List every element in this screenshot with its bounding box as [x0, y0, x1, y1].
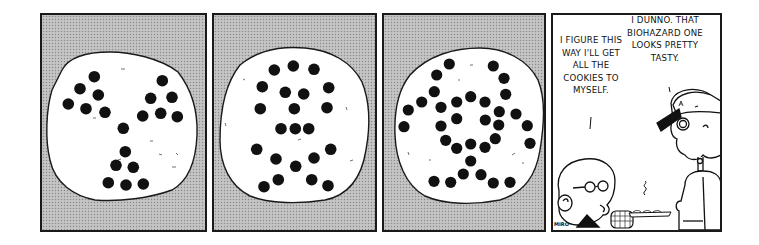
- chocolate-chip: [157, 75, 169, 87]
- chocolate-chip: [500, 89, 511, 100]
- chocolate-chip: [323, 82, 335, 94]
- chocolate-chip: [465, 155, 476, 166]
- chocolate-chip: [306, 174, 318, 186]
- speech-balloon-left: I figure this way I'll get all the cooki…: [556, 34, 626, 97]
- chocolate-chip: [155, 108, 167, 120]
- chocolate-chip: [289, 103, 301, 115]
- chocolate-chip: [74, 83, 86, 95]
- chocolate-chip: [435, 120, 446, 131]
- chocolate-chip: [145, 93, 157, 105]
- chocolate-chip: [451, 96, 462, 107]
- chocolate-chip: [118, 123, 130, 135]
- cookie: [395, 48, 544, 203]
- chocolate-chip: [465, 138, 476, 149]
- chocolate-chip: [280, 87, 292, 99]
- panel-3-swirl-cookie: [382, 13, 546, 232]
- kid-with-cap: [657, 90, 720, 231]
- speech-balloon-right: I dunno. That biohazard one looks pretty…: [623, 14, 707, 64]
- chocolate-chip: [325, 144, 337, 156]
- chocolate-chip: [504, 177, 515, 188]
- artist-signature: MIRO: [554, 221, 569, 227]
- speech-tail-right: [669, 87, 670, 92]
- chocolate-chip: [251, 144, 263, 156]
- comic-strip: I figure this way I'll get all the cooki…: [0, 0, 759, 245]
- chocolate-chip: [89, 71, 101, 83]
- chocolate-chip: [428, 176, 439, 187]
- chocolate-chip: [479, 142, 490, 153]
- chocolate-chip: [63, 98, 75, 110]
- cookie-illustration: [42, 15, 205, 230]
- chocolate-chip: [321, 102, 333, 114]
- chocolate-chip: [110, 160, 122, 172]
- chocolate-chip: [270, 153, 282, 165]
- chocolate-chip: [258, 181, 270, 193]
- panel-4-dialogue: I figure this way I'll get all the cooki…: [551, 13, 722, 232]
- chocolate-chip: [488, 177, 499, 188]
- chocolate-chip: [431, 69, 442, 80]
- panel-1-biohazard-cookie: [40, 13, 207, 232]
- chocolate-chip: [445, 177, 456, 188]
- chocolate-chip: [479, 96, 490, 107]
- chocolate-chip: [322, 180, 334, 192]
- chocolate-chip: [290, 161, 302, 173]
- kid-with-glasses: [558, 159, 615, 227]
- chocolate-chip: [166, 92, 178, 104]
- cookie-tray: [629, 211, 671, 218]
- chocolate-chip: [255, 103, 267, 115]
- chocolate-chip: [524, 138, 535, 149]
- chocolate-chip: [99, 107, 111, 119]
- chocolate-chip: [303, 123, 315, 135]
- chocolate-chip: [444, 58, 455, 69]
- chocolate-chip: [398, 121, 409, 132]
- chocolate-chip: [308, 152, 320, 164]
- cookie-illustration: [214, 15, 375, 230]
- chocolate-chip: [269, 64, 281, 76]
- chocolate-chip: [298, 88, 310, 100]
- chocolate-chip: [275, 123, 287, 135]
- chocolate-chip: [290, 123, 302, 135]
- chocolate-chip: [522, 120, 533, 131]
- cookie-illustration: [384, 15, 544, 230]
- chocolate-chip: [475, 169, 486, 180]
- chocolate-chip: [273, 174, 285, 186]
- speech-tail-left: [590, 117, 591, 129]
- chocolate-chip: [480, 114, 491, 125]
- steam-icon: [644, 181, 646, 195]
- chocolate-chip: [465, 91, 476, 102]
- chocolate-chip: [490, 133, 501, 144]
- chocolate-chip: [403, 104, 414, 115]
- chocolate-chip: [80, 103, 92, 115]
- chocolate-chip: [103, 177, 115, 189]
- chocolate-chip: [120, 146, 132, 158]
- chocolate-chip: [435, 102, 446, 113]
- chocolate-chip: [120, 179, 132, 191]
- chocolate-chip: [416, 96, 427, 107]
- chocolate-chip: [137, 110, 149, 122]
- chocolate-chip: [257, 81, 269, 93]
- chocolate-chip: [493, 119, 504, 130]
- chocolate-chip: [172, 111, 184, 123]
- chocolate-chip: [510, 108, 521, 119]
- chocolate-chip: [128, 162, 140, 174]
- chocolate-chip: [440, 135, 451, 146]
- chocolate-chip: [488, 60, 499, 71]
- chocolate-chip: [494, 106, 505, 117]
- chocolate-chip: [93, 89, 105, 101]
- chocolate-chip: [288, 60, 300, 72]
- chocolate-chip: [308, 64, 320, 76]
- chocolate-chip: [138, 178, 150, 190]
- chocolate-chip: [429, 86, 440, 97]
- panel-2-skull-cookie: [212, 13, 377, 232]
- chocolate-chip: [458, 168, 469, 179]
- chocolate-chip: [451, 143, 462, 154]
- chocolate-chip: [451, 113, 462, 124]
- chocolate-chip: [498, 73, 509, 84]
